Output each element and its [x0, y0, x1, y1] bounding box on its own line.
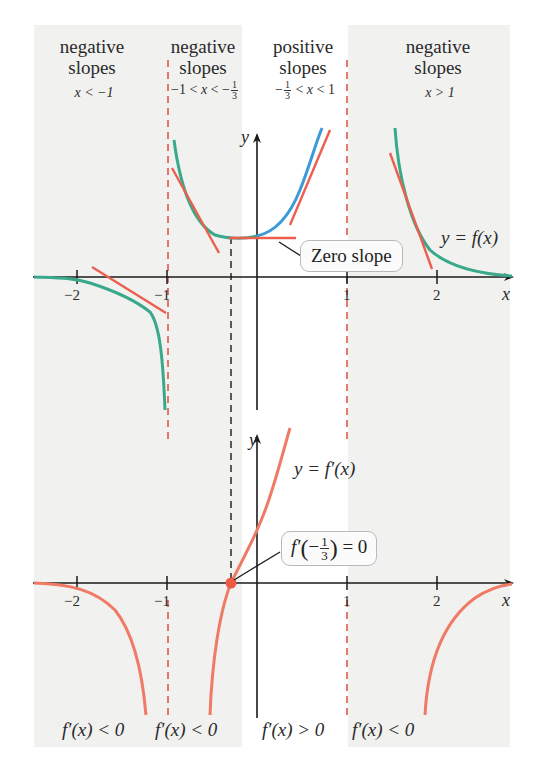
region-condition-1: x < −1 — [54, 85, 134, 101]
region-condition-4: x > 1 — [400, 85, 480, 101]
region-condition-3: −13 < x < 1 — [260, 80, 350, 101]
y-axis-label-bottom: y — [249, 430, 257, 451]
zero-slope-pointer — [279, 242, 301, 256]
x-tick-label-2-top: 2 — [433, 287, 441, 304]
region-heading-2: negative slopes — [155, 36, 251, 78]
x-axis-label-bottom: x — [502, 590, 510, 611]
sign-label-3: f′(x) > 0 — [262, 719, 324, 741]
x-axis-label-top: x — [502, 284, 510, 305]
sign-label-2: f′(x) < 0 — [155, 719, 217, 741]
x-tick-label-neg2-top: −2 — [64, 287, 80, 304]
tangent-line-2 — [172, 168, 219, 253]
region-heading-1: negative slopes — [44, 36, 140, 78]
f-curve-middle-right — [257, 128, 322, 236]
fprime-curve-middle — [210, 428, 290, 715]
fprime-curve-label: y = f′(x) — [294, 458, 355, 480]
fraction-one-third: 13 — [231, 80, 238, 101]
x-tick-label-neg2-bottom: −2 — [64, 593, 80, 610]
region-heading-4: negative slopes — [390, 36, 486, 78]
x-tick-label-neg1-top: −1 — [154, 287, 170, 304]
region-condition-2: −1 < x < −13 — [150, 80, 260, 101]
f-curve-left — [34, 277, 165, 410]
x-tick-label-1-top: 1 — [343, 287, 351, 304]
sign-label-4: f′(x) < 0 — [352, 719, 414, 741]
x-tick-label-2-bottom: 2 — [433, 593, 441, 610]
tangent-line-3 — [290, 130, 330, 225]
x-tick-label-1-bottom: 1 — [343, 593, 351, 610]
fprime-zero-callout: f′(−13) = 0 — [281, 531, 377, 566]
fprime-curve-left — [34, 583, 146, 715]
zero-slope-callout: Zero slope — [300, 240, 403, 272]
sign-label-1: f′(x) < 0 — [62, 719, 124, 741]
f-curve-right — [395, 128, 512, 276]
fraction-one-third: 13 — [320, 535, 329, 562]
f-curve-label: y = f(x) — [441, 227, 498, 249]
f-curve-middle — [174, 140, 257, 238]
x-tick-label-neg1-bottom: −1 — [154, 593, 170, 610]
region-heading-3: positive slopes — [258, 36, 348, 78]
y-axis-label-top: y — [241, 127, 249, 148]
fraction-one-third: 13 — [284, 80, 291, 101]
graph-canvas — [0, 0, 545, 779]
